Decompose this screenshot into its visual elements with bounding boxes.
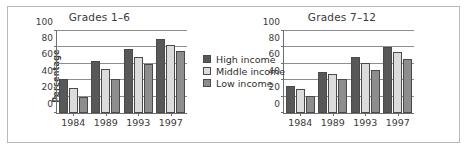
chart-title-left: Grades 1–6 bbox=[0, 11, 207, 23]
x-tick-mark bbox=[73, 113, 74, 116]
bar bbox=[403, 59, 412, 113]
bar bbox=[328, 74, 337, 113]
y-tick-label-100-left: 100 bbox=[36, 17, 53, 27]
y-tick-label-60-left: 60 bbox=[42, 49, 53, 59]
y-tick-label-0-left: 0 bbox=[47, 99, 53, 109]
bar bbox=[166, 45, 175, 113]
bar bbox=[59, 79, 68, 113]
x-tick-label-1984-right: 1984 bbox=[288, 117, 312, 128]
legend-item-low-income: Low income bbox=[203, 77, 285, 89]
bar-group-1993-left bbox=[122, 31, 155, 113]
legend-label-middle-income: Middle income bbox=[216, 66, 285, 77]
bar-group-1997-left bbox=[155, 31, 188, 113]
legend-item-middle-income: Middle income bbox=[203, 65, 285, 77]
x-tick-mark bbox=[333, 113, 334, 116]
bar bbox=[286, 86, 295, 113]
bar bbox=[318, 72, 327, 113]
plot-area-right: 0204060801001984198919931997 bbox=[283, 31, 414, 114]
bar bbox=[101, 69, 110, 113]
bar bbox=[383, 47, 392, 113]
legend-swatch-low-income bbox=[203, 79, 211, 87]
x-tick-label-1989-right: 1989 bbox=[321, 117, 345, 128]
y-tick-label-20-left: 20 bbox=[42, 82, 53, 92]
bar bbox=[393, 52, 402, 114]
bar bbox=[156, 39, 165, 113]
legend-swatch-middle-income bbox=[203, 67, 211, 75]
x-tick-label-1984-left: 1984 bbox=[61, 117, 85, 128]
figure: Grades 1–6 Percentage 020406080100198419… bbox=[0, 0, 469, 151]
bar bbox=[134, 57, 143, 113]
bar bbox=[91, 61, 100, 113]
bar bbox=[371, 70, 380, 113]
x-tick-label-1993-right: 1993 bbox=[353, 117, 377, 128]
bar-group-1993-right bbox=[349, 31, 382, 113]
bar bbox=[361, 63, 370, 113]
bar bbox=[296, 89, 305, 113]
plot-area-left: 0204060801001984198919931997 bbox=[56, 31, 187, 114]
chart-title-right: Grades 7–12 bbox=[225, 11, 459, 23]
x-tick-label-1997-right: 1997 bbox=[386, 117, 410, 128]
bar bbox=[79, 97, 88, 113]
bar bbox=[69, 88, 78, 113]
bar bbox=[176, 51, 185, 113]
y-tick-label-100-right: 100 bbox=[263, 17, 280, 27]
legend-item-high-income: High income bbox=[203, 53, 285, 65]
y-tick-label-0-right: 0 bbox=[274, 99, 280, 109]
bar-group-1984-right bbox=[284, 31, 317, 113]
bar-group-1989-right bbox=[317, 31, 350, 113]
x-tick-mark bbox=[300, 113, 301, 116]
legend-swatch-high-income bbox=[203, 55, 211, 63]
bar-group-1997-right bbox=[382, 31, 415, 113]
x-tick-label-1993-left: 1993 bbox=[126, 117, 150, 128]
bar bbox=[306, 96, 315, 113]
bar bbox=[144, 64, 153, 113]
x-tick-mark bbox=[171, 113, 172, 116]
bar bbox=[351, 57, 360, 113]
x-tick-mark bbox=[138, 113, 139, 116]
y-tick-label-80-left: 80 bbox=[42, 33, 53, 43]
legend: High income Middle income Low income bbox=[203, 53, 285, 89]
y-tick-label-80-right: 80 bbox=[269, 33, 280, 43]
x-tick-mark bbox=[398, 113, 399, 116]
x-tick-mark bbox=[365, 113, 366, 116]
bar bbox=[338, 79, 347, 113]
bar-group-1984-left bbox=[57, 31, 90, 113]
legend-label-low-income: Low income bbox=[216, 78, 273, 89]
bar bbox=[111, 79, 120, 113]
legend-label-high-income: High income bbox=[216, 54, 276, 65]
chart-panel-grades-1-6: Grades 1–6 Percentage 020406080100198419… bbox=[0, 0, 215, 151]
x-tick-mark bbox=[106, 113, 107, 116]
y-tick-label-40-left: 40 bbox=[42, 66, 53, 76]
x-tick-label-1997-left: 1997 bbox=[159, 117, 183, 128]
bar-group-1989-left bbox=[90, 31, 123, 113]
bar bbox=[124, 49, 133, 113]
x-tick-label-1989-left: 1989 bbox=[94, 117, 118, 128]
